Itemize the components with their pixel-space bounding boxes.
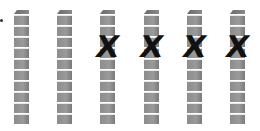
unit-cube bbox=[144, 114, 159, 124]
cross-out-mark: X bbox=[223, 32, 251, 62]
unit-cube bbox=[57, 48, 72, 58]
unit-cube bbox=[100, 92, 115, 102]
unit-cube bbox=[100, 103, 115, 113]
unit-cube bbox=[57, 59, 72, 69]
unit-cube bbox=[57, 81, 72, 91]
cross-out-mark: X bbox=[137, 32, 165, 62]
unit-cube bbox=[230, 103, 245, 113]
ten-rod bbox=[14, 10, 29, 124]
unit-cube bbox=[57, 26, 72, 36]
unit-cube bbox=[144, 15, 159, 25]
unit-cube bbox=[100, 70, 115, 80]
unit-cube bbox=[230, 114, 245, 124]
unit-cube bbox=[187, 114, 202, 124]
unit-cube bbox=[144, 103, 159, 113]
unit-cube bbox=[144, 92, 159, 102]
unit-cube bbox=[57, 114, 72, 124]
ten-rod bbox=[57, 10, 72, 124]
unit-cube bbox=[14, 48, 29, 58]
bullet-dot bbox=[0, 19, 3, 22]
ten-rod bbox=[100, 10, 115, 124]
unit-cube bbox=[230, 92, 245, 102]
ten-rod bbox=[144, 10, 159, 124]
ten-rod bbox=[187, 10, 202, 124]
unit-cube bbox=[230, 15, 245, 25]
unit-cube bbox=[230, 81, 245, 91]
unit-cube bbox=[187, 92, 202, 102]
unit-cube bbox=[57, 70, 72, 80]
unit-cube bbox=[144, 81, 159, 91]
unit-cube bbox=[14, 26, 29, 36]
unit-cube bbox=[187, 103, 202, 113]
unit-cube bbox=[144, 70, 159, 80]
unit-cube bbox=[14, 37, 29, 47]
unit-cube bbox=[57, 37, 72, 47]
unit-cube bbox=[14, 15, 29, 25]
unit-cube bbox=[14, 81, 29, 91]
unit-cube bbox=[57, 92, 72, 102]
unit-cube bbox=[230, 70, 245, 80]
unit-cube bbox=[14, 103, 29, 113]
unit-cube bbox=[100, 114, 115, 124]
cross-out-mark: X bbox=[180, 32, 208, 62]
ten-rod bbox=[230, 10, 245, 124]
unit-cube bbox=[187, 70, 202, 80]
unit-cube bbox=[14, 92, 29, 102]
cross-out-mark: X bbox=[93, 32, 121, 62]
unit-cube bbox=[57, 15, 72, 25]
unit-cube bbox=[14, 59, 29, 69]
unit-cube bbox=[14, 114, 29, 124]
unit-cube bbox=[100, 15, 115, 25]
unit-cube bbox=[100, 81, 115, 91]
unit-cube bbox=[187, 15, 202, 25]
unit-cube bbox=[57, 103, 72, 113]
unit-cube bbox=[14, 70, 29, 80]
unit-cube bbox=[187, 81, 202, 91]
